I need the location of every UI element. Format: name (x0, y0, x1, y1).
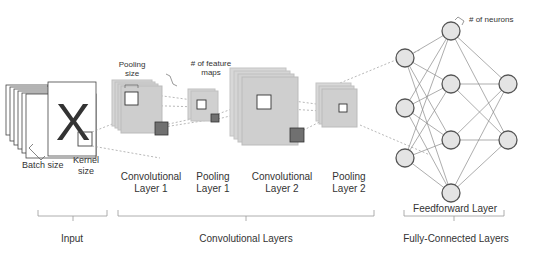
kernel-size-label-2: size (78, 166, 94, 176)
input-glyph: X (56, 93, 91, 151)
conv-layer-1-maps (112, 80, 168, 135)
group-fc-label: Fully-Connected Layers (403, 233, 509, 244)
neurons (396, 22, 517, 202)
layer-1-line2: Layer 1 (134, 183, 168, 194)
pooling-size-label-1: Pooling (119, 60, 146, 69)
layer-1-line1: Convolutional (121, 171, 182, 182)
feature-maps-label-1: # of feature (191, 59, 232, 68)
layer-4-line2: Layer 2 (332, 183, 366, 194)
fc-connections (405, 31, 508, 193)
layer-4-line1: Pooling (332, 171, 365, 182)
pooling-size-label-2: size (125, 69, 140, 78)
cnn-diagram: X Batch size Kernel size Pooling size (0, 0, 548, 262)
input-image-stack: X (6, 82, 96, 158)
batch-size-label: Batch size (22, 160, 64, 170)
conv-layer-2-maps (230, 68, 304, 145)
group-conv-label: Convolutional Layers (199, 233, 292, 244)
pooling-layer-2-maps (316, 83, 357, 127)
layer-3-line1: Convolutional (252, 171, 313, 182)
neurons-label: # of neurons (469, 15, 513, 24)
layer-2-line2: Layer 1 (196, 183, 230, 194)
group-input-label: Input (61, 233, 83, 244)
kernel-size-label-1: Kernel (73, 155, 99, 165)
feedforward-label: Feedforward Layer (413, 203, 498, 214)
layer-3-line2: Layer 2 (265, 183, 299, 194)
feature-maps-label-2: maps (201, 68, 221, 77)
pooling-layer-1-maps (188, 89, 219, 122)
layer-2-line1: Pooling (196, 171, 229, 182)
